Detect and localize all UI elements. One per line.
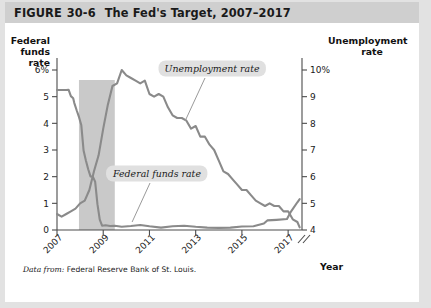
callout-federal-funds-rate: Federal funds rate [106,166,207,223]
x-tick-label: 2009 [87,232,110,255]
x-tick-label: 2011 [134,232,157,255]
figure-header-band: FIGURE30-6The Fed's Target, 2007–2017 [5,2,419,23]
right-axis-ticks: 45678910% [302,65,330,235]
source-note-lead: Data from: [23,265,64,274]
x-tick-label: 2007 [41,232,64,255]
left-tick-label: 1 [43,199,49,209]
figure-header-text: FIGURE30-6The Fed's Target, 2007–2017 [14,6,291,20]
figure-number: 30-6 [67,6,96,20]
right-tick-label: 6 [310,172,316,182]
figure-header-prefix: FIGURE [14,6,62,20]
left-axis-title-line3: rate [28,57,50,68]
left-tick-label: 3 [43,145,49,155]
callout-federal-funds-leader [132,183,150,222]
left-tick-label: 0 [43,225,49,235]
left-tick-label: 5 [43,92,49,102]
figure-card: FIGURE30-6The Fed's Target, 2007–2017 01… [0,0,431,308]
right-tick-label: 8 [310,119,316,129]
x-tick-label: 2015 [226,232,249,255]
callout-federal-funds-label: Federal funds rate [112,168,201,179]
right-tick-label: 10% [310,65,330,75]
left-axis-ticks: 0123456% [35,65,57,235]
left-axis-title-line1: Federal [11,35,50,46]
x-axis-title: Year [319,261,343,272]
right-axis-break-icon [298,235,310,243]
right-axis-title-line1: Unemployment [328,35,408,46]
right-axis-title-line2: rate [361,46,383,57]
right-tick-label: 4 [310,225,316,235]
figure-title: The Fed's Target, 2007–2017 [105,6,291,20]
right-tick-label: 7 [310,145,316,155]
left-tick-label: 4 [43,119,49,129]
bottom-axis-ticks: 200720092011201320152017 [41,230,295,256]
callout-unemployment-leader [185,78,205,121]
left-tick-label: 2 [43,172,49,182]
x-tick-label: 2017 [272,232,295,255]
callout-unemployment-rate: Unemployment rate [159,61,266,121]
left-axis-title-line2: funds [21,46,51,57]
source-note-text: Federal Reserve Bank of St. Louis. [67,265,196,274]
x-tick-label: 2013 [180,232,203,255]
right-tick-label: 5 [310,199,316,209]
right-tick-label: 9 [310,92,316,102]
source-note: Data from: Federal Reserve Bank of St. L… [23,265,196,274]
callout-unemployment-label: Unemployment rate [165,63,260,74]
